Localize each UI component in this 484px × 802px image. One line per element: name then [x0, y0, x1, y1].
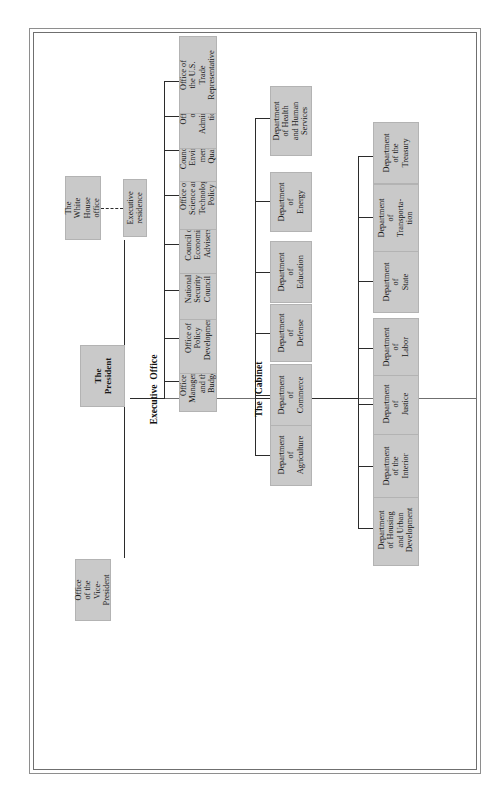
node-executive-residence-label: Executive residence	[126, 191, 145, 224]
stub-eop-4	[164, 195, 179, 196]
node-cabinet-outer-3-label: Department of Labor	[382, 327, 410, 366]
connector-president-vicepresident	[124, 398, 125, 558]
node-cabinet-inner-2[interactable]: Department of Defense	[270, 304, 312, 362]
stub-cab-in-0	[255, 455, 270, 456]
node-cabinet-inner-0[interactable]: Department of Agriculture	[270, 424, 312, 486]
stub-cab-out-6	[358, 156, 373, 157]
stub-cab-out-0	[358, 528, 373, 529]
node-cabinet-outer-4-label: Department of State	[382, 262, 410, 301]
node-eop-agency-1-label: Office of Policy Development	[184, 316, 212, 361]
spine-executive-office	[164, 81, 165, 399]
stub-eop-6	[164, 116, 179, 117]
node-cabinet-inner-4[interactable]: Department of Energy	[270, 172, 312, 232]
node-cabinet-inner-0-label: Department of Agriculture	[277, 435, 305, 474]
stub-cab-out-2	[358, 404, 373, 405]
node-cabinet-inner-4-label: Department of Energy	[277, 182, 305, 221]
stub-cab-in-4	[255, 201, 270, 202]
node-cabinet-outer-2[interactable]: Department of Justice	[373, 373, 419, 435]
node-cabinet-inner-5-label: Department of Health and Human Services	[272, 101, 309, 140]
node-eop-agency-3-label: Council of Economic Advisers	[184, 225, 212, 260]
stub-eop-2	[164, 290, 179, 291]
stub-cab-out-4	[358, 281, 373, 282]
org-chart: The President Office of the Vice- Presid…	[33, 32, 477, 770]
stub-eop-1	[164, 338, 179, 339]
stub-cab-out-3	[358, 348, 373, 349]
node-eop-agency-7[interactable]: Office of the U.S. Trade Representative	[179, 36, 217, 114]
node-cabinet-outer-4[interactable]: Department of State	[373, 251, 419, 313]
node-cabinet-inner-3[interactable]: Department of Education	[270, 241, 312, 303]
node-cabinet-inner-3-label: Department of Education	[277, 252, 305, 291]
node-cabinet-inner-2-label: Department of Defense	[277, 313, 305, 352]
node-cabinet-outer-1-label: Department of the Interior	[382, 446, 410, 485]
node-cabinet-outer-2-label: Department of Justice	[382, 384, 410, 423]
node-cabinet-outer-5-label: Department of Transporta- tion	[377, 198, 414, 237]
stub-cab-in-5	[255, 118, 270, 119]
node-cabinet-outer-5[interactable]: Department of Transporta- tion	[373, 184, 419, 252]
node-cabinet-inner-1-label: Department of Commerce	[277, 375, 305, 414]
stub-eop-5	[164, 150, 179, 151]
stub-cab-in-3	[255, 272, 270, 273]
node-eop-agency-2-label: National Security Council	[184, 275, 212, 304]
stub-cab-in-2	[255, 333, 270, 334]
node-white-house-office[interactable]: The White House office	[65, 176, 101, 240]
node-executive-residence[interactable]: Executive residence	[123, 179, 147, 237]
stub-eop-3	[164, 244, 179, 245]
node-cabinet-outer-1[interactable]: Department of the Interior	[373, 434, 419, 498]
node-cabinet-outer-6[interactable]: Department of the Treasury	[373, 122, 419, 184]
node-cabinet-inner-1[interactable]: Department of Commerce	[270, 364, 312, 426]
node-cabinet-outer-6-label: Department of the Treasury	[382, 133, 410, 172]
node-office-of-vice-president-label: Office of the Vice- President	[74, 575, 111, 606]
node-cabinet-outer-0-label: Department of Housing and Urban Developm…	[377, 508, 414, 553]
node-eop-agency-7-label: Office of the U.S. Trade Representative	[179, 50, 216, 99]
node-cabinet-inner-5[interactable]: Department of Health and Human Services	[270, 86, 312, 156]
stub-cab-out-1	[358, 466, 373, 467]
stub-cab-out-5	[358, 217, 373, 218]
connector-whitehouse-residence	[101, 208, 123, 209]
node-white-house-office-label: The White House office	[64, 197, 101, 218]
spine-cabinet-outer	[358, 156, 359, 529]
node-cabinet-outer-3[interactable]: Department of Labor	[373, 318, 419, 376]
stub-eop-7	[164, 81, 179, 82]
node-office-of-vice-president[interactable]: Office of the Vice- President	[75, 559, 111, 621]
node-cabinet-outer-0[interactable]: Department of Housing and Urban Developm…	[373, 494, 419, 566]
